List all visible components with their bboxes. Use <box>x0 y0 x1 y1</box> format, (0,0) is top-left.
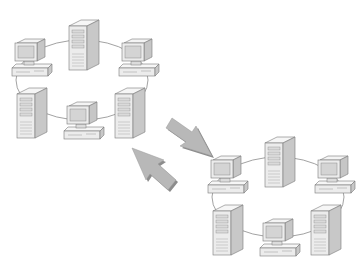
network-diagram <box>0 0 364 273</box>
arrow-up-left-icon <box>132 148 178 192</box>
network-a <box>12 20 159 139</box>
arrow-down-right-icon <box>166 118 214 158</box>
network-b <box>208 137 355 256</box>
